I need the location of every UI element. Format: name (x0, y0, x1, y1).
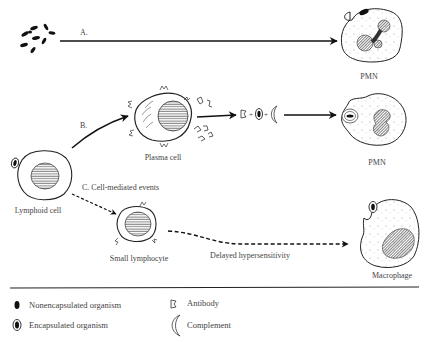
lymphoid-cell-label: Lymphoid cell (15, 207, 61, 215)
encapsulated-organism-icon (13, 320, 21, 331)
svg-text:+: + (249, 111, 253, 119)
plasma-cell (128, 86, 191, 147)
pathway-a-label: A. (80, 29, 88, 37)
arrow-delayed-hypersensitivity (168, 231, 348, 244)
small-lymphocyte (115, 202, 157, 245)
pathway-b-label: B. (80, 122, 87, 130)
pmn-label-top: PMN (360, 73, 377, 81)
pmn-label-middle: PMN (368, 159, 385, 167)
encapsulated-organism-icon (256, 109, 263, 120)
macrophage-cell (361, 200, 419, 268)
lymphoid-cell (18, 151, 72, 200)
equation: + + (241, 106, 277, 123)
antibody-icon (171, 300, 176, 308)
small-lymphocyte-label: Small lymphocyte (110, 255, 168, 263)
encapsulated-organism-icon (10, 157, 19, 168)
legend-antibody-label: Antibody (187, 299, 219, 308)
complement-icon (271, 106, 277, 123)
complement-icon (172, 315, 180, 336)
legend-divider (10, 287, 419, 288)
legend-encapsulated-label: Encapsulated organism (29, 321, 108, 330)
macrophage-label: Macrophage (372, 272, 412, 280)
antibody-icon (241, 110, 246, 118)
nonencapsulated-organism-icon (15, 301, 20, 309)
bacteria-cluster-icon (20, 23, 56, 54)
pathway-c-label: C. Cell-mediated events (82, 184, 159, 192)
plasma-cell-label: Plasma cell (145, 154, 182, 162)
arrow-c (72, 194, 116, 214)
free-antibodies (194, 97, 213, 141)
pmn-cell-middle (342, 94, 406, 146)
svg-text:+: + (264, 111, 268, 119)
arrow-b1 (197, 115, 236, 117)
delayed-hypersensitivity-label: Delayed hypersensitivity (210, 252, 290, 260)
legend-complement-label: Complement (187, 321, 231, 330)
pmn-cell-top (341, 8, 402, 62)
legend-nonencapsulated-label: Nonencapsulated organism (29, 301, 121, 310)
